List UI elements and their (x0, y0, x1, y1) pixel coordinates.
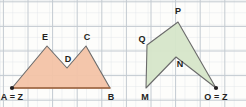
vertex-label-o: O = Z (204, 92, 228, 102)
geometry-diagram: A = Z E D C B M N O = Z P Q (0, 0, 246, 107)
vertex-marker-a (10, 86, 14, 90)
vertex-label-p: P (175, 6, 181, 16)
vertex-label-b: B (108, 92, 115, 102)
diagram-canvas: A = Z E D C B M N O = Z P Q (0, 0, 246, 107)
vertex-label-a: A = Z (1, 92, 24, 102)
grid-minor-lines (0, 0, 246, 107)
vertex-label-n: N (177, 59, 184, 69)
vertex-label-c: C (84, 32, 91, 42)
vertex-label-m: M (141, 92, 149, 102)
vertex-label-q: Q (138, 34, 145, 44)
vertex-label-e: E (42, 32, 48, 42)
vertex-marker-o (214, 86, 218, 90)
vertex-label-d: D (65, 54, 72, 64)
